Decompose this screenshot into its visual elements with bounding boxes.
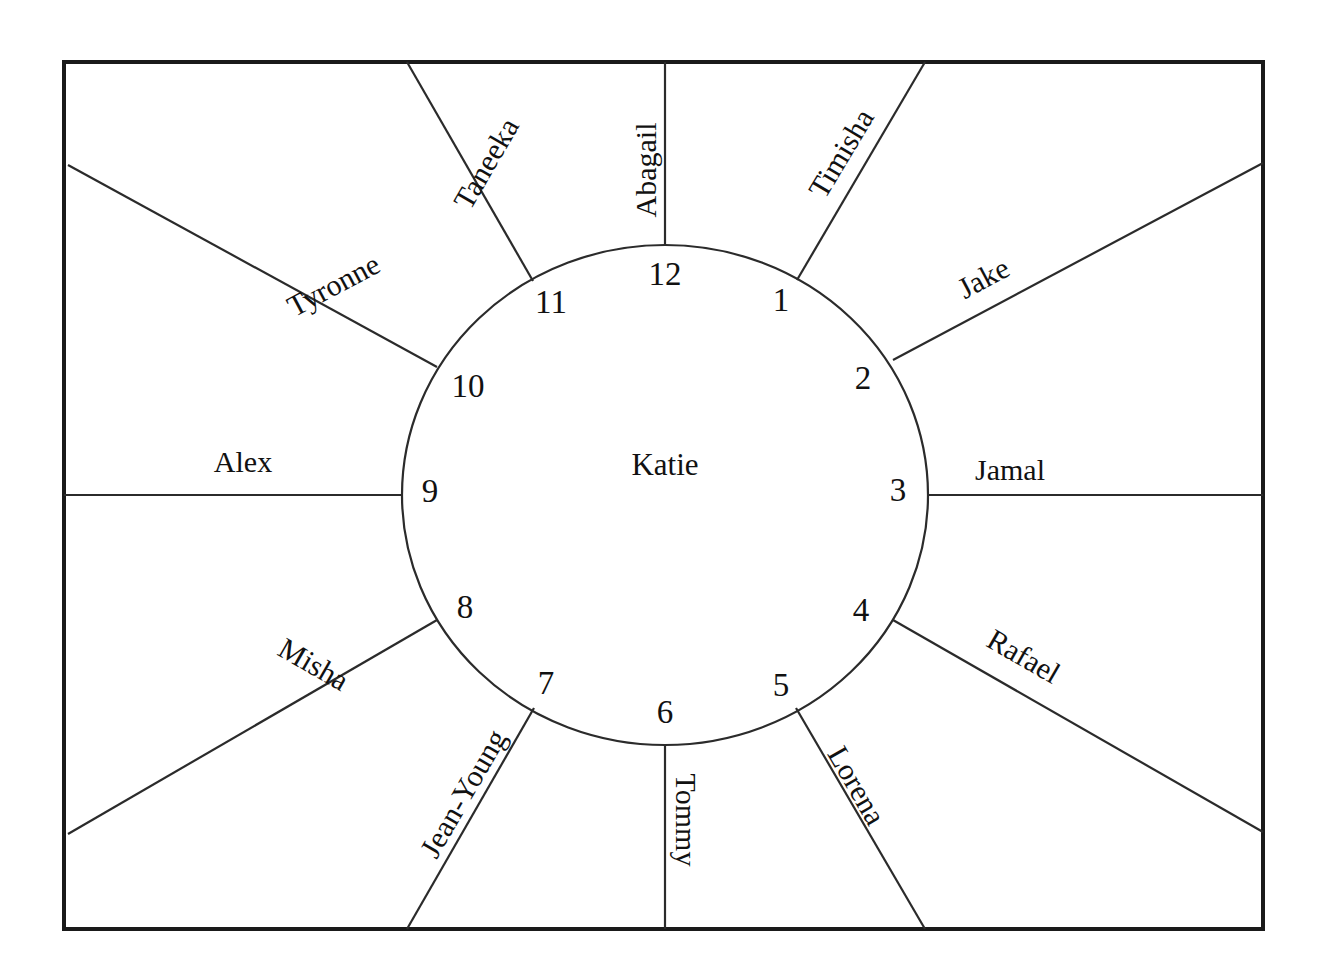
spoke-label-jake: Jake bbox=[952, 251, 1015, 305]
hour-numbers-group: 121234567891011 bbox=[422, 256, 907, 730]
spoke-line-tyronne bbox=[68, 165, 437, 367]
hour-number-10: 10 bbox=[452, 368, 485, 404]
hour-number-8: 8 bbox=[457, 589, 474, 625]
hour-number-2: 2 bbox=[855, 360, 872, 396]
hour-number-3: 3 bbox=[890, 472, 907, 508]
spoke-line-jean-young bbox=[407, 708, 534, 929]
hour-number-1: 1 bbox=[773, 282, 790, 318]
spoke-line-misha bbox=[68, 620, 437, 834]
spoke-lines-group bbox=[64, 62, 1263, 929]
spoke-label-lorena: Lorena bbox=[822, 740, 893, 830]
hour-number-11: 11 bbox=[535, 284, 567, 320]
clock-face-circle bbox=[402, 245, 928, 745]
spoke-label-abagail: Abagail bbox=[629, 123, 662, 218]
hour-number-7: 7 bbox=[538, 665, 555, 701]
hour-number-12: 12 bbox=[649, 256, 682, 292]
spoke-label-jean-young: Jean-Young bbox=[413, 723, 513, 862]
spoke-label-timisha: Timisha bbox=[802, 103, 880, 203]
center-person-label: Katie bbox=[631, 447, 698, 482]
hour-number-4: 4 bbox=[853, 592, 870, 628]
spoke-labels-group: AbagailTimishaJakeJamalRafaelLorenaTommy… bbox=[214, 103, 1066, 866]
clock-diagram-canvas: 121234567891011 AbagailTimishaJakeJamalR… bbox=[0, 0, 1331, 979]
spoke-label-rafael: Rafael bbox=[982, 622, 1066, 690]
spoke-label-alex: Alex bbox=[214, 445, 272, 478]
spoke-label-tommy: Tommy bbox=[670, 774, 703, 867]
clock-diagram-svg: 121234567891011 AbagailTimishaJakeJamalR… bbox=[0, 0, 1331, 979]
spoke-label-jamal: Jamal bbox=[975, 453, 1045, 486]
hour-number-9: 9 bbox=[422, 473, 439, 509]
spoke-line-jake bbox=[893, 163, 1263, 360]
spoke-line-rafael bbox=[893, 620, 1263, 832]
spoke-label-misha: Misha bbox=[273, 631, 354, 697]
hour-number-6: 6 bbox=[657, 694, 674, 730]
hour-number-5: 5 bbox=[773, 667, 790, 703]
